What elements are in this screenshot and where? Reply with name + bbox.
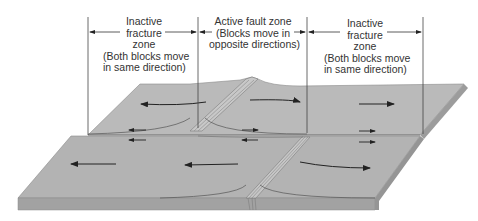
label-line: zone [133,39,156,51]
label-line: in same direction) [103,62,186,74]
label-line: Inactive [347,18,383,30]
lower-block [18,136,424,210]
right-inactive-zone-label: Inactive fracture zone (Both blocks move… [324,18,406,76]
label-line: Inactive [126,16,162,28]
label-line: zone [354,41,377,53]
label-line: opposite directions) [209,39,297,51]
active-fault-zone-label: Active fault zone (Blocks move in opposi… [209,16,297,51]
transform-fault-diagram: Inactive fracture zone (Both blocks move… [0,0,478,221]
label-line: Active fault zone [209,16,297,28]
label-line: in same direction) [324,64,407,76]
left-inactive-zone-label: Inactive fracture zone (Both blocks move… [103,16,185,74]
